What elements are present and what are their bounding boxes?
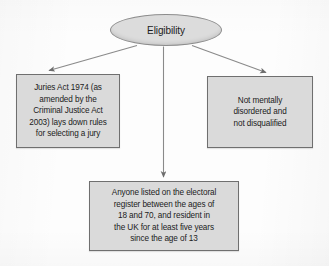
node-juries-act-label: Juries Act 1974 (as amended by the Crimi… — [21, 82, 115, 139]
node-eligibility: Eligibility — [110, 14, 222, 46]
node-electoral-register: Anyone listed on the electoral register … — [89, 181, 239, 251]
edge-eligibility-to-juries-act — [49, 46, 137, 71]
node-juries-act: Juries Act 1974 (as amended by the Crimi… — [16, 74, 120, 148]
edge-eligibility-to-not-disqualified — [192, 46, 266, 73]
node-not-disqualified-label: Not mentally disordered and not disquali… — [212, 95, 308, 129]
node-not-disqualified: Not mentally disordered and not disquali… — [207, 76, 313, 148]
node-eligibility-label: Eligibility — [111, 25, 221, 36]
diagram-canvas: Eligibility Juries Act 1974 (as amended … — [0, 0, 329, 266]
node-electoral-register-label: Anyone listed on the electoral register … — [94, 187, 234, 244]
